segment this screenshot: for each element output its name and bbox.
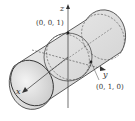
- x-axis-label: x: [16, 87, 21, 96]
- point-label-0-1-0: (0, 1, 0): [96, 83, 124, 91]
- z-axis-arrow-icon: [66, 4, 70, 9]
- cylinder-diagram: z y x (0, 0, 1) (0, 1, 0): [0, 0, 135, 121]
- point-label-0-0-1: (0, 0, 1): [36, 19, 64, 27]
- point-0-0-1: [67, 32, 70, 35]
- z-axis-label: z: [59, 4, 65, 13]
- y-axis-label: y: [102, 70, 108, 79]
